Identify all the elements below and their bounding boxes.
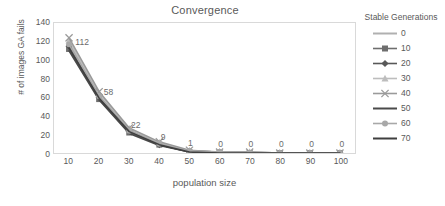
y-axis-tick-label: 140 bbox=[36, 18, 50, 27]
legend-label: 60 bbox=[401, 118, 410, 129]
y-axis-tick-labels: 020406080100120140 bbox=[18, 22, 50, 154]
legend-swatch-30 bbox=[372, 73, 398, 84]
series-line-60 bbox=[66, 41, 343, 153]
y-axis-tick-label: 60 bbox=[41, 93, 50, 102]
legend-swatch-50 bbox=[372, 103, 398, 114]
legend-item-60[interactable]: 60 bbox=[362, 116, 444, 131]
y-axis-tick-label: 0 bbox=[45, 150, 50, 159]
y-axis-tick-label: 40 bbox=[41, 112, 50, 121]
series-line-30 bbox=[66, 37, 344, 153]
legend-swatch-60 bbox=[372, 118, 398, 129]
legend-title: Stable Generations bbox=[362, 12, 440, 22]
plot-series-svg bbox=[54, 23, 355, 153]
y-axis-tick-label: 120 bbox=[36, 36, 50, 45]
legend-label: 70 bbox=[401, 133, 410, 144]
legend-item-70[interactable]: 70 bbox=[362, 131, 444, 146]
x-axis-title: population size bbox=[53, 177, 356, 188]
legend-swatch-10 bbox=[372, 43, 398, 54]
legend-items: 010203040506070 bbox=[362, 26, 444, 146]
legend-label: 50 bbox=[401, 103, 410, 114]
legend-label: 10 bbox=[401, 43, 410, 54]
legend-item-50[interactable]: 50 bbox=[362, 101, 444, 116]
legend-swatch-40 bbox=[372, 88, 398, 99]
x-axis-tick-label: 30 bbox=[124, 156, 133, 166]
legend-item-30[interactable]: 30 bbox=[362, 71, 444, 86]
legend-item-10[interactable]: 10 bbox=[362, 41, 444, 56]
legend-label: 20 bbox=[401, 58, 410, 69]
series-line-50 bbox=[69, 51, 340, 153]
chart-title: Convergence bbox=[60, 4, 350, 16]
series-line-10 bbox=[66, 46, 343, 153]
legend-item-20[interactable]: 20 bbox=[362, 56, 444, 71]
legend-label: 30 bbox=[401, 73, 410, 84]
legend-swatch-0 bbox=[372, 28, 398, 39]
data-point-marker-circle bbox=[66, 41, 72, 47]
series-line-20 bbox=[65, 43, 343, 153]
x-axis-tick-label: 50 bbox=[185, 156, 194, 166]
x-axis-tick-label: 80 bbox=[276, 156, 285, 166]
y-axis-tick-label: 80 bbox=[41, 74, 50, 83]
y-axis-tick-label: 20 bbox=[41, 131, 50, 140]
x-axis-tick-label: 90 bbox=[306, 156, 315, 166]
x-axis-tick-label: 20 bbox=[94, 156, 103, 166]
legend-item-0[interactable]: 0 bbox=[362, 26, 444, 41]
x-axis-tick-label: 10 bbox=[63, 156, 72, 166]
convergence-chart: Convergence # of images GA fails 0204060… bbox=[0, 0, 445, 206]
legend-item-40[interactable]: 40 bbox=[362, 86, 444, 101]
x-axis-tick-labels: 102030405060708090100 bbox=[53, 156, 356, 170]
series-line-70 bbox=[69, 48, 340, 153]
legend-swatch-70 bbox=[372, 133, 398, 144]
x-axis-tick-label: 40 bbox=[154, 156, 163, 166]
legend-swatch-20 bbox=[372, 58, 398, 69]
legend-label: 0 bbox=[401, 28, 406, 39]
series-line-40 bbox=[65, 34, 343, 153]
legend-label: 40 bbox=[401, 88, 410, 99]
plot-area: 11258229100000 bbox=[53, 22, 356, 154]
x-axis-tick-label: 70 bbox=[245, 156, 254, 166]
x-axis-tick-label: 60 bbox=[215, 156, 224, 166]
series-line-0 bbox=[69, 43, 340, 154]
x-axis-tick-label: 100 bbox=[334, 156, 348, 166]
data-point-marker-diamond bbox=[381, 60, 388, 67]
data-point-marker-square bbox=[382, 46, 388, 52]
data-point-marker-circle bbox=[382, 121, 388, 127]
legend: Stable Generations 010203040506070 bbox=[362, 12, 444, 146]
y-axis-tick-label: 100 bbox=[36, 55, 50, 64]
